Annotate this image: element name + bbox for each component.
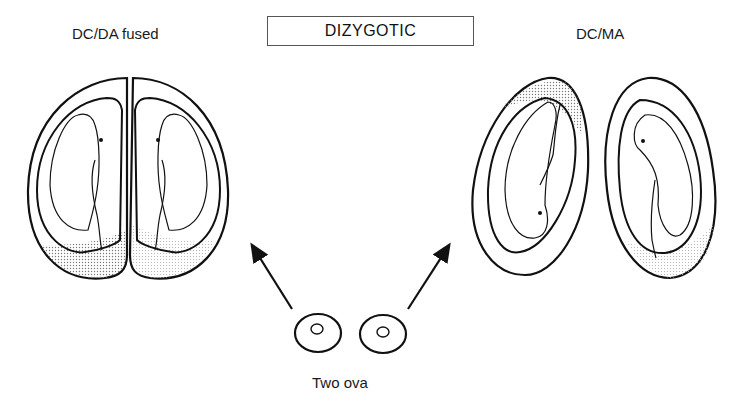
arrow-to-dcda-fused [255,250,292,309]
title-box: DIZYGOTIC [267,16,474,46]
title-text: DIZYGOTIC [325,22,417,40]
diagram-canvas [0,0,747,408]
dcma-left-sac [472,78,588,275]
arrow-to-dcma [408,250,446,309]
dcda-fused-left-sac [28,78,127,278]
ovum-right [360,315,406,353]
dcda-fused-right-sac [130,78,228,278]
two-ova-label: Two ova [312,374,368,391]
dcma-label: DC/MA [576,25,624,42]
dcma-right-sac [605,78,715,278]
dcda-fused-label: DC/DA fused [72,25,159,42]
ovum-left [295,314,341,352]
